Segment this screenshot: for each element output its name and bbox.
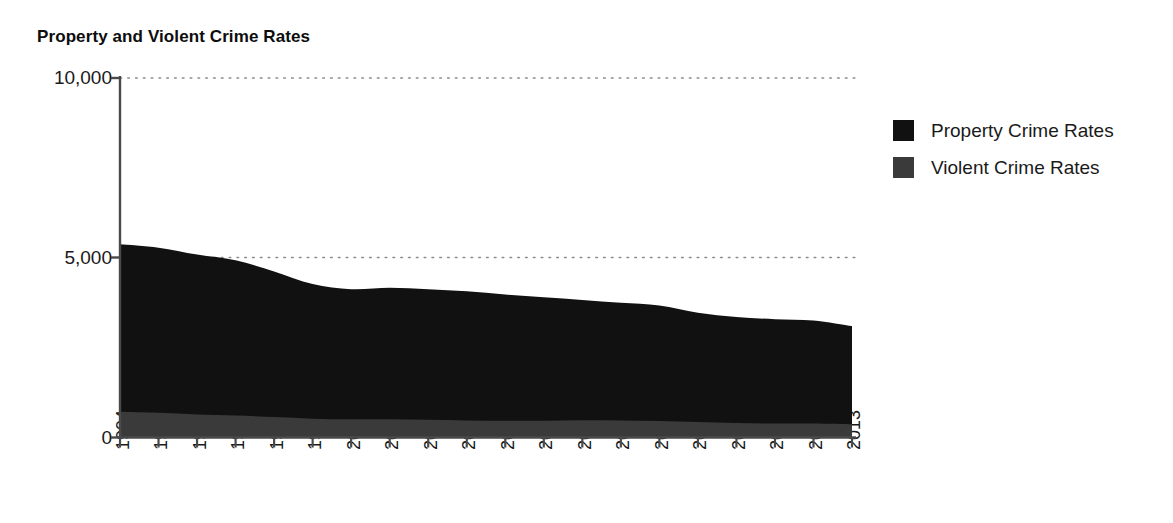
- legend-swatch-violent-icon: [893, 157, 914, 178]
- crime-rates-area-chart: Property and Violent Crime Rates 10,000 …: [0, 0, 1173, 523]
- legend-item-violent-crime-rates: Violent Crime Rates: [893, 155, 1114, 179]
- x-tick-marks: [120, 438, 852, 448]
- legend-swatch-property-icon: [893, 120, 914, 141]
- plot-area: [0, 0, 1173, 523]
- legend-label-violent-crime-rates: Violent Crime Rates: [931, 157, 1100, 178]
- legend-label-property-crime-rates: Property Crime Rates: [931, 120, 1114, 141]
- series-area-property-crime-rates: [120, 244, 852, 437]
- legend-item-property-crime-rates: Property Crime Rates: [893, 118, 1114, 142]
- chart-legend: Property Crime Rates Violent Crime Rates: [893, 118, 1114, 192]
